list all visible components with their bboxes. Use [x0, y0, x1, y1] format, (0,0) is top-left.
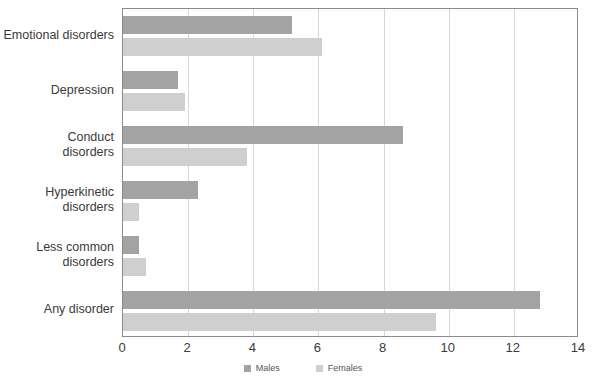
category-label-line: disorders	[0, 255, 114, 270]
category-label-line: Conduct	[0, 130, 114, 145]
bar-females	[123, 148, 247, 166]
legend-label: Males	[256, 363, 280, 373]
category-label: Depression	[0, 83, 114, 98]
x-tick-0: 0	[118, 340, 125, 355]
bar-males	[123, 16, 292, 34]
legend-swatch-icon	[316, 365, 323, 372]
x-tick-10: 10	[440, 340, 454, 355]
plot-area	[122, 8, 578, 337]
bar-chart: Emotional disordersDepressionConductdiso…	[0, 0, 606, 383]
category-label-line: Emotional disorders	[0, 28, 114, 43]
category-label-line: Any disorder	[0, 302, 114, 317]
category-label: Less commondisorders	[0, 240, 114, 270]
bar-group	[123, 283, 577, 338]
bar-group	[123, 174, 577, 229]
x-tick-6: 6	[314, 340, 321, 355]
x-tick-14: 14	[571, 340, 585, 355]
bar-group	[123, 119, 577, 174]
x-tick-12: 12	[506, 340, 520, 355]
x-tick-8: 8	[379, 340, 386, 355]
category-label: Conductdisorders	[0, 130, 114, 160]
x-tick-4: 4	[249, 340, 256, 355]
category-label: Hyperkineticdisorders	[0, 185, 114, 215]
category-label: Any disorder	[0, 302, 114, 317]
legend-label: Females	[328, 363, 363, 373]
bar-group	[123, 228, 577, 283]
bar-females	[123, 313, 436, 331]
bar-males	[123, 236, 139, 254]
bar-females	[123, 258, 146, 276]
category-label-line: disorders	[0, 200, 114, 215]
legend-swatch-icon	[244, 365, 251, 372]
bar-group	[123, 64, 577, 119]
category-label-line: Less common	[0, 240, 114, 255]
bar-males	[123, 126, 403, 144]
category-label-line: Hyperkinetic	[0, 185, 114, 200]
bar-group	[123, 9, 577, 64]
bar-males	[123, 181, 198, 199]
chart-legend: MalesFemales	[0, 363, 606, 373]
bar-females	[123, 93, 185, 111]
bar-males	[123, 71, 178, 89]
bar-males	[123, 291, 540, 309]
legend-item-females: Females	[316, 363, 363, 373]
bar-females	[123, 203, 139, 221]
bar-females	[123, 38, 322, 56]
category-label-line: Depression	[0, 83, 114, 98]
x-tick-2: 2	[184, 340, 191, 355]
category-label: Emotional disorders	[0, 28, 114, 43]
legend-item-males: Males	[244, 363, 280, 373]
category-label-line: disorders	[0, 145, 114, 160]
